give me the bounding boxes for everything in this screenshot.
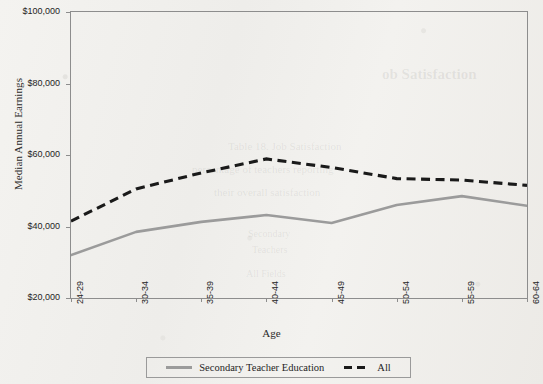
x-axis-title: Age [0,327,543,339]
series-layer [71,12,527,298]
y-axis-tick-label: $20,000 [4,292,60,302]
series-line-secondary-teacher-education [71,196,527,255]
series-line-all [71,159,527,221]
chart-legend: Secondary Teacher Education All [146,357,411,378]
legend-swatch-dashed-line-icon [344,366,370,369]
line-chart: Median Annual Earnings $100,000$80,000$6… [0,0,543,384]
legend-item-all[interactable]: All [344,362,390,373]
y-axis-title: Median Annual Earnings [12,34,24,234]
plot-area [70,11,528,299]
legend-label: Secondary Teacher Education [199,362,324,373]
y-axis-tick-label: $100,000 [4,6,60,16]
y-axis-tick-label: $60,000 [4,149,60,159]
legend-item-secondary-teacher-education[interactable]: Secondary Teacher Education [166,362,324,373]
legend-swatch-solid-line-icon [166,366,192,369]
y-axis-tick-label: $40,000 [4,221,60,231]
y-axis-tick-label: $80,000 [4,78,60,88]
x-axis-tick-label: 60-64 [531,281,541,304]
legend-label: All [377,362,390,373]
